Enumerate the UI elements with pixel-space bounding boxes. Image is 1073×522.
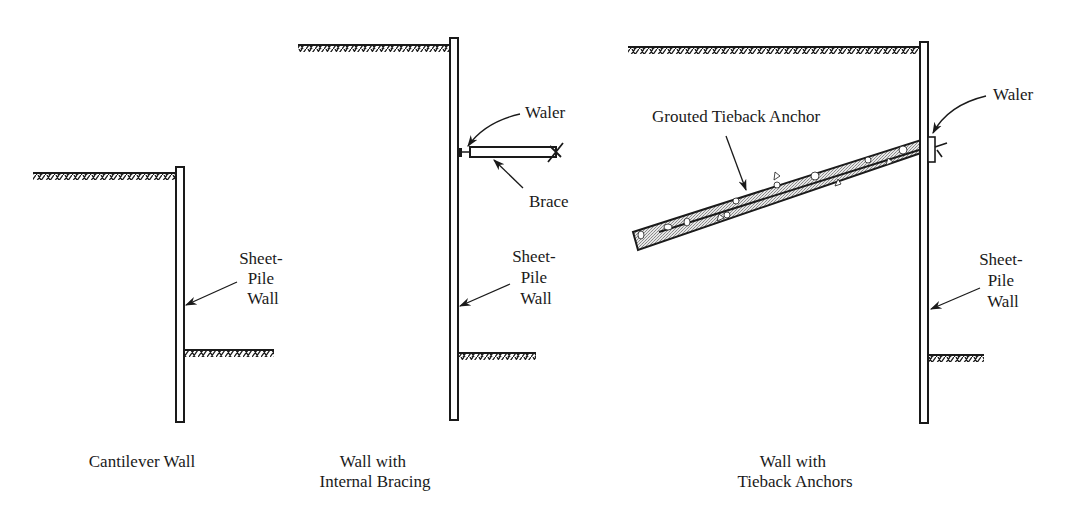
sheet-pile-wall-arrow bbox=[931, 288, 980, 309]
ground-surface-retained-side bbox=[33, 173, 176, 180]
retaining-wall-types-diagram: Sheet- Pile Wall Cantilever Wall Waler B… bbox=[0, 0, 1073, 522]
caption-tieback-anchors: Wall with Tieback Anchors bbox=[737, 452, 852, 491]
waler-label: Waler bbox=[993, 85, 1033, 104]
grouted-tieback-anchor-label: Grouted Tieback Anchor bbox=[652, 107, 820, 126]
panel-tieback-anchors: Grouted Tieback Anchor Waler Sheet- Pile… bbox=[628, 42, 1033, 491]
sheet-pile-wall bbox=[450, 38, 458, 420]
ground-surface-retained-side bbox=[628, 47, 920, 54]
sheet-pile-wall-arrow bbox=[186, 282, 237, 305]
waler-label: Waler bbox=[525, 103, 565, 122]
caption-internal-bracing: Wall with Internal Bracing bbox=[320, 452, 431, 491]
sheet-pile-wall-label: Sheet- Pile Wall bbox=[979, 250, 1027, 311]
brace-arrow bbox=[494, 160, 523, 188]
sheet-pile-wall-label: Sheet- Pile Wall bbox=[239, 249, 287, 308]
waler bbox=[928, 137, 935, 162]
sheet-pile-wall-arrow bbox=[460, 284, 510, 306]
panel-internal-bracing: Waler Brace Sheet- Pile Wall Wall with I… bbox=[298, 38, 569, 491]
ground-surface-excavation-side bbox=[928, 355, 984, 362]
waler bbox=[458, 148, 462, 157]
grouted-tieback-anchor-arrow bbox=[726, 136, 746, 190]
waler-arrow bbox=[933, 96, 986, 133]
ground-surface-excavation-side bbox=[458, 353, 536, 360]
sheet-pile-wall bbox=[920, 42, 928, 423]
brace bbox=[470, 147, 556, 157]
caption-cantilever-wall: Cantilever Wall bbox=[89, 452, 196, 471]
panel-cantilever-wall: Sheet- Pile Wall Cantilever Wall bbox=[33, 167, 287, 471]
waler-arrow bbox=[468, 114, 520, 146]
brace-label: Brace bbox=[529, 192, 569, 211]
ground-surface-retained-side bbox=[298, 45, 450, 52]
ground-surface-excavation-side bbox=[184, 350, 274, 357]
sheet-pile-wall bbox=[176, 167, 184, 422]
anchor-head bbox=[935, 143, 947, 157]
tendon bbox=[659, 145, 935, 232]
sheet-pile-wall-label: Sheet- Pile Wall bbox=[512, 247, 560, 308]
